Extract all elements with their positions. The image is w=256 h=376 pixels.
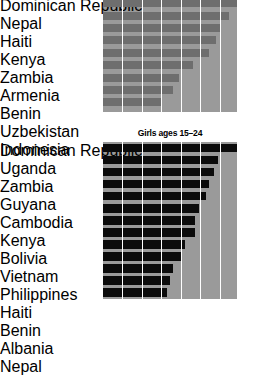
bar-track bbox=[103, 86, 237, 94]
bar bbox=[103, 228, 195, 237]
bar bbox=[103, 240, 185, 249]
bar bbox=[103, 288, 167, 297]
bar-track bbox=[103, 180, 237, 189]
bar bbox=[103, 74, 179, 82]
bar bbox=[103, 180, 209, 189]
bar bbox=[103, 204, 199, 213]
bar bbox=[103, 192, 206, 201]
bottom-bar-chart: Girls ages 15–24 Dominican RepublicUgand… bbox=[0, 128, 256, 299]
bar bbox=[103, 86, 173, 94]
bar-track bbox=[103, 204, 237, 213]
bar-track bbox=[103, 144, 237, 153]
bar bbox=[103, 24, 220, 32]
bar-track bbox=[103, 12, 237, 20]
category-label: Albania bbox=[0, 340, 256, 358]
bar bbox=[103, 276, 170, 285]
top-chart-rows: Dominican RepublicNepalHaitiKenyaZambiaA… bbox=[0, 0, 256, 115]
bar-track bbox=[103, 168, 237, 177]
bar bbox=[103, 0, 237, 7]
bar-track bbox=[103, 240, 237, 249]
bar-track bbox=[103, 276, 237, 285]
bar-track bbox=[103, 36, 237, 44]
bar-track bbox=[103, 228, 237, 237]
bar-track bbox=[103, 252, 237, 261]
category-label: Haiti bbox=[0, 304, 256, 322]
top-bar-chart: Dominican RepublicNepalHaitiKenyaZambiaA… bbox=[0, 0, 256, 115]
category-label: Benin bbox=[0, 322, 256, 340]
bar-track bbox=[103, 74, 237, 82]
bar bbox=[103, 216, 195, 225]
bottom-chart-rows: Dominican RepublicUgandaZambiaGuyanaCamb… bbox=[0, 142, 256, 299]
bar-track bbox=[103, 61, 237, 69]
bar bbox=[103, 12, 229, 20]
bar-track bbox=[103, 192, 237, 201]
bar-track bbox=[103, 0, 237, 7]
bar-track bbox=[103, 24, 237, 32]
bar bbox=[103, 49, 209, 57]
bar-track bbox=[103, 49, 237, 57]
category-label: Benin bbox=[0, 105, 256, 123]
bar bbox=[103, 61, 193, 69]
bar bbox=[103, 264, 173, 273]
bar-track bbox=[103, 264, 237, 273]
bar-track bbox=[103, 156, 237, 165]
bar bbox=[103, 98, 161, 106]
bar-track bbox=[103, 288, 237, 297]
bar bbox=[103, 156, 218, 165]
bar bbox=[103, 168, 214, 177]
bar-track bbox=[103, 98, 237, 106]
bar bbox=[103, 144, 237, 153]
bar bbox=[103, 252, 182, 261]
bar-track bbox=[103, 216, 237, 225]
bar bbox=[103, 36, 216, 44]
bottom-chart-title: Girls ages 15–24 bbox=[106, 128, 233, 138]
category-label: Nepal bbox=[0, 358, 256, 376]
